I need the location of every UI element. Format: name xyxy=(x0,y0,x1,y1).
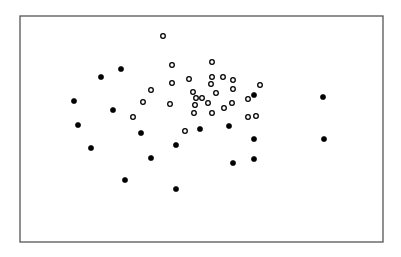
series-open-points xyxy=(131,34,263,134)
open-data-point xyxy=(191,90,196,95)
open-data-point xyxy=(161,34,166,39)
open-data-point xyxy=(214,91,219,96)
open-data-point xyxy=(246,115,251,120)
open-data-point xyxy=(170,81,175,86)
filled-data-point xyxy=(173,142,178,147)
open-data-point xyxy=(141,100,146,105)
filled-data-point xyxy=(71,98,76,103)
scatter-chart xyxy=(0,0,401,257)
open-data-point xyxy=(231,78,236,83)
filled-data-point xyxy=(122,177,127,182)
open-data-point xyxy=(168,102,173,107)
filled-data-point xyxy=(321,136,326,141)
filled-data-point xyxy=(230,160,235,165)
filled-data-point xyxy=(251,92,256,97)
open-data-point xyxy=(231,87,236,92)
filled-data-point xyxy=(251,156,256,161)
filled-data-point xyxy=(118,66,123,71)
open-data-point xyxy=(194,96,199,101)
open-data-point xyxy=(149,88,154,93)
open-data-point xyxy=(210,75,215,80)
open-data-point xyxy=(192,111,197,116)
filled-data-point xyxy=(251,136,256,141)
open-data-point xyxy=(200,96,205,101)
open-data-point xyxy=(206,101,211,106)
open-data-point xyxy=(193,103,198,108)
filled-data-point xyxy=(226,123,231,128)
open-data-point xyxy=(246,97,251,102)
open-data-point xyxy=(209,82,214,87)
filled-data-point xyxy=(110,107,115,112)
open-data-point xyxy=(210,111,215,116)
filled-data-point xyxy=(88,145,93,150)
filled-data-point xyxy=(197,126,202,131)
series-filled-points xyxy=(71,66,326,191)
open-data-point xyxy=(254,114,259,119)
filled-data-point xyxy=(98,74,103,79)
open-data-point xyxy=(187,77,192,82)
filled-data-point xyxy=(138,130,143,135)
open-data-point xyxy=(210,60,215,65)
open-data-point xyxy=(131,115,136,120)
filled-data-point xyxy=(320,94,325,99)
open-data-point xyxy=(222,106,227,111)
filled-data-point xyxy=(75,122,80,127)
open-data-point xyxy=(170,63,175,68)
filled-data-point xyxy=(173,186,178,191)
open-data-point xyxy=(183,129,188,134)
open-data-point xyxy=(230,101,235,106)
filled-data-point xyxy=(148,155,153,160)
open-data-point xyxy=(221,75,226,80)
open-data-point xyxy=(258,83,263,88)
